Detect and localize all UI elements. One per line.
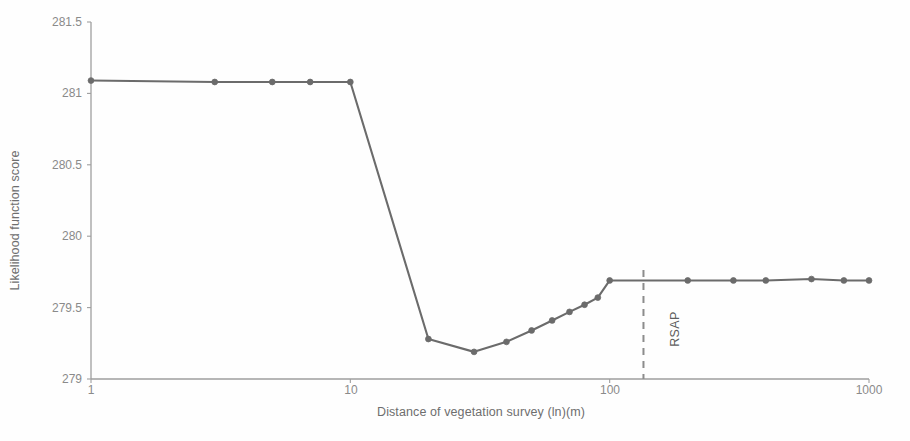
- data-point-marker: [529, 328, 535, 334]
- data-point-marker: [347, 79, 353, 85]
- data-point-marker: [731, 278, 737, 284]
- data-point-marker: [471, 349, 477, 355]
- data-point-marker: [809, 276, 815, 282]
- data-point-marker: [212, 79, 218, 85]
- data-point-marker: [567, 309, 573, 315]
- data-point-marker: [866, 278, 872, 284]
- data-point-marker: [685, 278, 691, 284]
- data-point-marker: [504, 339, 510, 345]
- data-point-marker: [841, 278, 847, 284]
- data-point-marker: [595, 295, 601, 301]
- data-point-marker: [582, 302, 588, 308]
- data-point-marker: [763, 278, 769, 284]
- data-point-marker: [549, 318, 555, 324]
- series-line: [91, 81, 869, 352]
- data-point-marker: [607, 278, 613, 284]
- plot-area: [0, 0, 910, 441]
- data-point-marker: [269, 79, 275, 85]
- data-point-marker: [307, 79, 313, 85]
- data-point-marker: [88, 78, 94, 84]
- data-point-marker: [426, 336, 432, 342]
- likelihood-function-chart: Likelihood function score 279 279.5 280 …: [0, 0, 910, 441]
